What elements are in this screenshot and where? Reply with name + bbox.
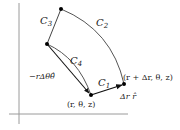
point-left (45, 42, 49, 46)
point-origin (89, 93, 93, 97)
label-origin-point: (r, θ, z) (67, 100, 95, 109)
label-c4: C4 (70, 55, 82, 68)
cylindrical-path-diagram: C3 C2 C4 C1 −rΔθθ̂ (r, θ, z) (r + Δr, θ,… (0, 0, 180, 130)
label-c2: C2 (96, 17, 109, 30)
label-c3: C3 (40, 15, 53, 28)
label-radial-vector: Δr r̂ (119, 92, 137, 101)
point-radial (122, 82, 126, 86)
label-angular-vector: −rΔθθ̂ (29, 72, 55, 81)
curve-c2 (61, 9, 124, 84)
point-top (59, 7, 63, 11)
angular-vector-arrow (47, 44, 89, 93)
label-c1: C1 (98, 77, 110, 90)
label-radial-point: (r + Δr, θ, z) (123, 73, 173, 82)
